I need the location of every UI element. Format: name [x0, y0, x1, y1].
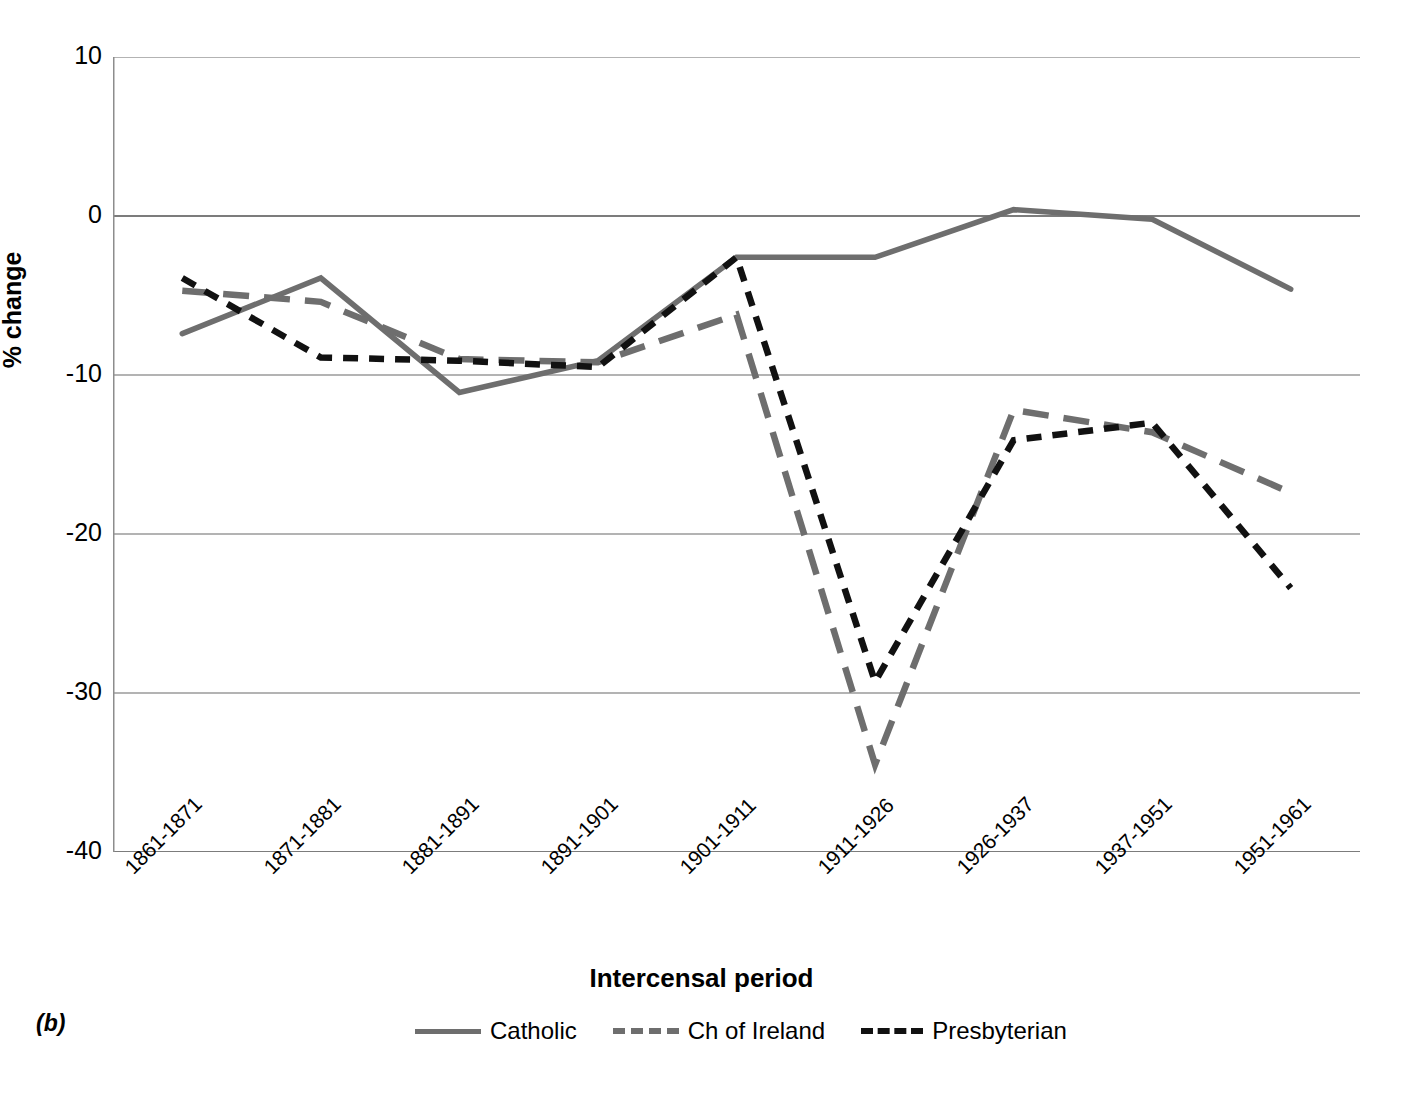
legend-label: Catholic: [490, 1017, 577, 1045]
plot-area: [113, 57, 1360, 852]
legend-item: Catholic: [415, 1017, 577, 1045]
panel-label: (b): [36, 1010, 65, 1037]
x-axis-title: Intercensal period: [0, 963, 1403, 994]
y-axis-tick-label: 0: [32, 202, 102, 227]
y-axis-tick-label: -10: [32, 361, 102, 386]
legend-item: Presbyterian: [861, 1017, 1067, 1045]
y-axis-tick-label: -20: [32, 520, 102, 545]
legend-label: Presbyterian: [932, 1017, 1067, 1045]
y-axis-tick-label: 10: [32, 43, 102, 68]
y-axis-tick-labels: 100-10-20-30-40: [20, 0, 102, 1105]
y-axis-tick-label: -30: [32, 679, 102, 704]
chart-figure: % change 100-10-20-30-40 1861-18711871-1…: [0, 0, 1403, 1105]
gridlines: [113, 57, 1360, 852]
legend-label: Ch of Ireland: [688, 1017, 825, 1045]
chart-legend: CatholicCh of IrelandPresbyterian: [415, 1017, 1067, 1045]
legend-swatch: [613, 1028, 679, 1034]
legend-item: Ch of Ireland: [613, 1017, 825, 1045]
series-line: [182, 210, 1290, 393]
y-axis-tick-label: -40: [32, 838, 102, 863]
legend-swatch: [861, 1028, 923, 1034]
legend-swatch: [415, 1029, 481, 1034]
data-series-layer: [182, 210, 1290, 765]
